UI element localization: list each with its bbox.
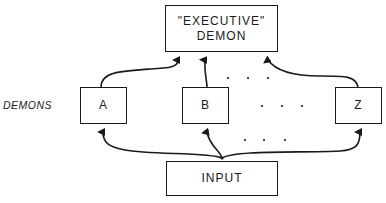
input-box: INPUT — [166, 161, 278, 196]
input-label: INPUT — [202, 171, 243, 186]
demons-side-label: DEMONS — [3, 99, 52, 111]
demon-label: A — [99, 98, 108, 113]
ellipsis-dots — [227, 77, 303, 141]
arrow-input-to-b — [207, 132, 222, 158]
arrow-a-to-executive — [101, 60, 178, 87]
demon-box-b: B — [182, 87, 229, 124]
demon-label: Z — [354, 98, 362, 113]
executive-label-line2: DEMON — [197, 29, 247, 44]
demon-box-z: Z — [335, 87, 382, 124]
arrow-z-to-executive — [268, 60, 358, 87]
arrow-input-to-z — [222, 132, 360, 158]
executive-demon-box: "EXECUTIVE" DEMON — [165, 5, 278, 52]
arrow-b-to-executive — [205, 60, 207, 87]
arrow-input-to-a — [103, 132, 222, 158]
demon-label: B — [201, 98, 210, 113]
demon-box-a: A — [80, 87, 127, 124]
executive-label-line1: "EXECUTIVE" — [178, 14, 266, 29]
